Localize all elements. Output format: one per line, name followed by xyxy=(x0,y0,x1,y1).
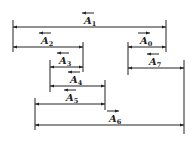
dimension-a2: A2 xyxy=(13,33,83,48)
dimension-a0: A0 xyxy=(128,33,166,48)
extension-lines xyxy=(13,20,184,134)
dimension-label: A0 xyxy=(139,35,153,48)
dimension-a7: A7 xyxy=(128,54,184,69)
dimension-label: A1 xyxy=(83,15,96,28)
dimension-a5: A5 xyxy=(35,90,105,105)
dimension-a1: A1 xyxy=(13,13,166,28)
dimension-label: A4 xyxy=(69,74,83,87)
dimension-lines: A1A2A0A3A7A4A5A6 xyxy=(13,13,184,126)
dimension-label: A5 xyxy=(65,92,79,105)
dimension-label: A7 xyxy=(148,56,161,69)
dimension-a6: A6 xyxy=(35,111,184,126)
dimension-a4: A4 xyxy=(50,72,105,87)
dimension-chain-diagram: A1A2A0A3A7A4A5A6 xyxy=(0,0,195,143)
dimension-label: A6 xyxy=(108,113,122,126)
dimension-label: A2 xyxy=(40,35,53,48)
dimension-label: A3 xyxy=(58,55,72,68)
dimension-a3: A3 xyxy=(50,53,83,68)
